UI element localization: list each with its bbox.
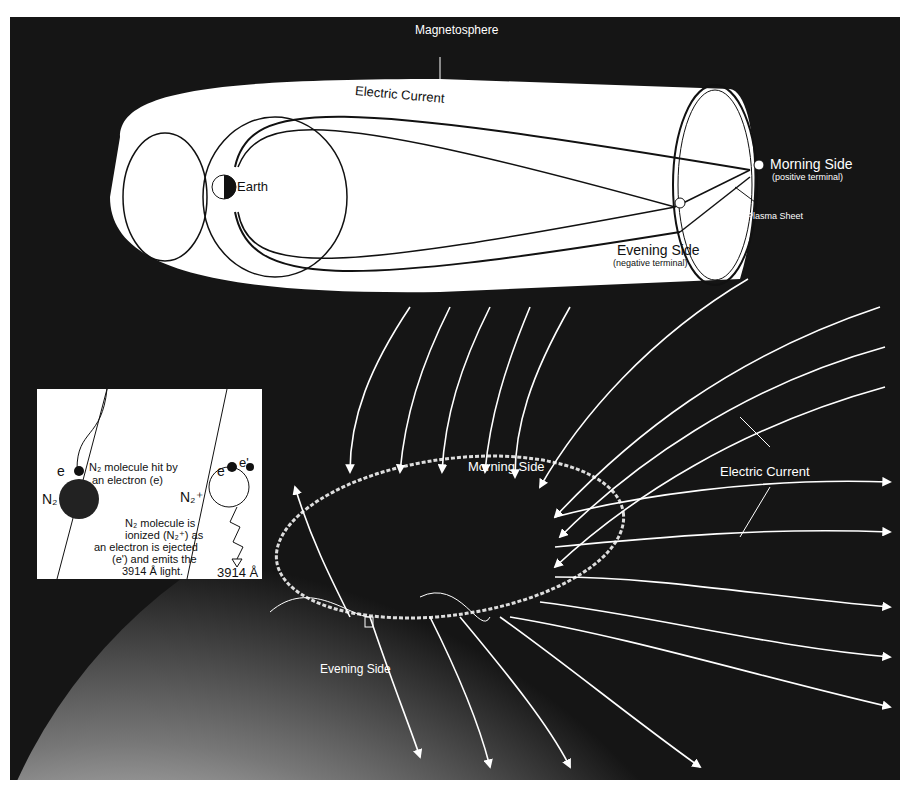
magnetosphere-label: Magnetosphere <box>415 23 498 37</box>
aurora-electric-current-label: Electric Current <box>720 464 810 479</box>
electron-label: e <box>57 465 65 477</box>
positive-terminal-label: (positive terminal) <box>772 172 843 182</box>
ionization-inset: e N₂ N₂ molecule hit by an electron (e) … <box>37 389 262 579</box>
hit-text-1: N₂ molecule hit by <box>89 461 178 473</box>
aurora-morning-side-label: Morning Side <box>468 459 545 474</box>
n2-plus-label: N₂⁺ <box>180 491 203 503</box>
ionized-text-5: 3914 Å light. <box>122 565 183 577</box>
plasma-sheet-label: Plasma Sheet <box>747 211 803 221</box>
ionized-text-1: N₂ molecule is <box>125 517 195 529</box>
aurora-evening-side-label: Evening Side <box>320 662 391 676</box>
morning-side-label: Morning Side <box>770 156 853 172</box>
wavelength-label: 3914 Å <box>217 567 258 579</box>
diagram-canvas: Magnetosphere Electric Current Earth Mor… <box>10 17 900 780</box>
ejected-electron-label: e' <box>239 457 249 469</box>
ionized-text-2: ionized (N₂⁺) as <box>125 529 203 541</box>
ionized-text-4: (e') and emits the <box>112 553 197 565</box>
earth-label: Earth <box>237 179 268 194</box>
evening-side-label-top: Evening Side <box>617 242 700 258</box>
n2-label: N₂ <box>42 493 58 505</box>
electron-label-2: e <box>217 465 225 477</box>
ionized-text-3: an electron is ejected <box>94 541 198 553</box>
negative-terminal-label: (negative terminal) <box>613 258 688 268</box>
hit-text-2: an electron (e) <box>92 474 163 486</box>
